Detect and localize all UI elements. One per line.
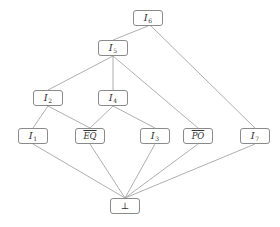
node-i2: I2 <box>33 90 63 106</box>
node-i6-base: I <box>144 13 148 23</box>
edge-layer <box>0 0 280 227</box>
node-i5-base: I <box>109 43 113 53</box>
edge-eq-bottom <box>90 144 125 198</box>
node-i5-sub: 5 <box>113 48 117 54</box>
node-i1-sub: 1 <box>33 136 37 142</box>
edge-i5-i2 <box>48 56 113 90</box>
edge-i6-i7 <box>151 26 255 128</box>
node-i4: I4 <box>98 90 128 106</box>
edge-i2-i1 <box>33 106 48 128</box>
edge-i1-bottom <box>33 144 125 198</box>
node-i2-base: I <box>44 93 48 103</box>
node-i7-base: I <box>251 131 255 141</box>
edge-i2-eq <box>48 106 90 128</box>
lattice-diagram: I6 I5 I2 I4 I1 EQ I3 PO I7 ⊥ <box>0 0 280 227</box>
node-po: PO <box>183 128 213 144</box>
node-i6: I6 <box>133 10 163 26</box>
node-i7-sub: 7 <box>255 136 259 142</box>
node-i7: I7 <box>240 128 270 144</box>
edge-po-bottom <box>125 144 198 198</box>
edge-i6-i5 <box>113 26 148 40</box>
node-i1: I1 <box>18 128 48 144</box>
node-i4-sub: 4 <box>113 98 117 104</box>
node-po-label: PO <box>192 132 205 141</box>
node-i3-base: I <box>151 131 155 141</box>
node-i4-base: I <box>109 93 113 103</box>
node-eq: EQ <box>75 128 105 144</box>
edge-i4-i3 <box>113 106 155 128</box>
node-bottom-label: ⊥ <box>121 202 129 211</box>
node-i3-sub: 3 <box>155 136 159 142</box>
node-i5: I5 <box>98 40 128 56</box>
node-i6-sub: 6 <box>148 18 152 24</box>
node-eq-label: EQ <box>83 132 96 141</box>
edge-i4-eq <box>90 106 113 128</box>
node-i1-base: I <box>29 131 33 141</box>
node-i2-sub: 2 <box>48 98 52 104</box>
edge-i3-bottom <box>125 144 155 198</box>
node-bottom: ⊥ <box>110 198 140 214</box>
node-i3: I3 <box>140 128 170 144</box>
edge-i7-bottom <box>125 144 255 198</box>
